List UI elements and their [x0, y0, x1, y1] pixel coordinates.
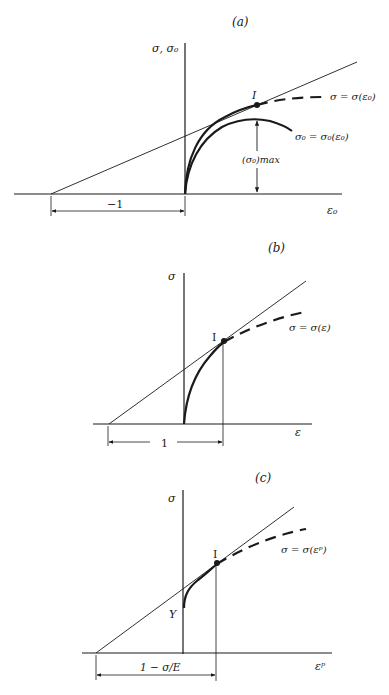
panel-c-dashed-curve-label: σ = σ(εᵖ): [281, 544, 327, 555]
panel-a-true-stress-curve: [185, 105, 257, 194]
considere-construction-figure: (a) σ, σ₀ ε₀ σ = σ(ε₀) σ₀ = σ₀(ε₀) I (σ₀…: [0, 0, 389, 695]
panel-a-point-label: I: [251, 89, 257, 102]
panel-a-y-axis-label: σ, σ₀: [152, 42, 179, 55]
panel-a-label: (a): [232, 15, 249, 29]
panel-b-point-i: [221, 338, 227, 344]
panel-b-x-axis-label: ε: [295, 426, 301, 439]
panel-a-solid-curve-label: σ₀ = σ₀(ε₀): [295, 131, 349, 142]
panel-c-dimension-label: 1 − σ/E: [140, 661, 181, 673]
panel-b-point-label: I: [212, 331, 216, 344]
panel-c-tangent-line: [96, 507, 294, 653]
panel-c-yield-label: Y: [169, 608, 178, 621]
panel-a-x-axis-label: ε₀: [327, 204, 338, 217]
panel-a: (a) σ, σ₀ ε₀ σ = σ(ε₀) σ₀ = σ₀(ε₀) I (σ₀…: [14, 15, 376, 217]
panel-b-tangent-line: [109, 281, 306, 424]
panel-b-stress-strain-curve: [184, 342, 224, 424]
panel-a-tangent-line: [51, 62, 357, 194]
panel-b-dashed-curve-label: σ = σ(ε): [289, 322, 331, 333]
panel-a-dashed-curve-label: σ = σ(ε₀): [330, 91, 376, 102]
panel-c-y-axis-label: σ: [168, 492, 176, 505]
panel-b-dimension-label: 1: [161, 437, 168, 450]
panel-b: (b) σ ε σ = σ(ε) I 1: [93, 241, 331, 450]
panel-a-point-i: [254, 102, 260, 108]
panel-c-stress-plastic-strain-curve: [184, 564, 217, 608]
panel-c: (c) σ εᵖ σ = σ(εᵖ) I Y 1 − σ/E: [82, 471, 332, 681]
panel-a-max-label: (σ₀)max: [242, 154, 280, 165]
panel-b-label: (b): [268, 241, 285, 255]
panel-c-label: (c): [255, 471, 271, 485]
panel-c-point-label: I: [213, 548, 217, 561]
panel-b-y-axis-label: σ: [168, 270, 176, 283]
panel-a-dimension-label: −1: [107, 198, 123, 211]
panel-c-x-axis-label: εᵖ: [315, 660, 326, 673]
